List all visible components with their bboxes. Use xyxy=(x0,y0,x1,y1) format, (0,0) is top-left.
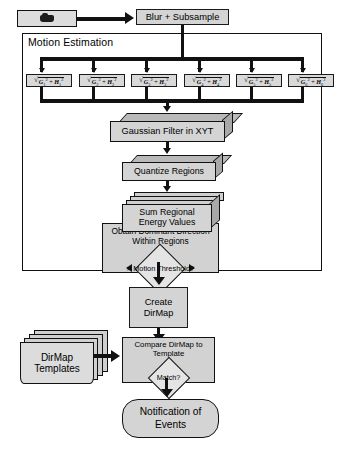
template-front-sheet: DirMap Templates xyxy=(20,342,94,384)
blur-subsample-label: Blur + Subsample xyxy=(146,12,220,22)
filter-chip-3: √G32 + H32 xyxy=(131,74,177,87)
notification-line2: Events xyxy=(155,419,186,431)
motion-estimation-label: Motion Estimation xyxy=(28,36,113,48)
arrow-to-create-dirmap xyxy=(153,277,165,285)
arrow-to-notification xyxy=(161,389,173,397)
notification-node: Notification of Events xyxy=(122,399,219,438)
connector-source-to-blur xyxy=(77,17,127,21)
quantize-front-face: Quantize Regions xyxy=(122,162,216,181)
create-dirmap-line1: Create xyxy=(145,297,173,307)
filter-chip-6: √G62 + H62 xyxy=(288,74,334,87)
chip-1-index: 1 xyxy=(43,82,45,87)
arrow-to-quantize xyxy=(163,148,171,154)
gaussian-front-face: Gaussian Filter in XYT xyxy=(110,121,225,142)
filter-chip-1: √G12 + H12 xyxy=(26,74,72,87)
chip-2-index: 2 xyxy=(96,82,98,87)
bus-arrow-3 xyxy=(144,68,150,73)
chip-6-index: 6 xyxy=(305,82,307,87)
chip-4-index: 4 xyxy=(201,82,203,87)
sum-front-face: Sum Regional Energy Values xyxy=(122,204,212,232)
compare-node: Compare DirMap to Template Match? xyxy=(122,337,215,383)
gaussian-filter-label: Gaussian Filter in XYT xyxy=(122,126,214,136)
match-label: Match? xyxy=(123,373,214,382)
bus-arrow-6 xyxy=(300,68,306,73)
create-dirmap-line2: DirMap xyxy=(144,308,174,318)
arrow-to-gaussian xyxy=(163,106,171,112)
filter-chip-2: √G22 + H22 xyxy=(79,74,125,87)
bus-arrow-1 xyxy=(39,68,45,73)
quantize-regions-label: Quantize Regions xyxy=(134,167,204,177)
video-camera-icon xyxy=(40,15,54,22)
compare-line1: Compare DirMap to xyxy=(134,340,202,349)
notification-line1: Notification of xyxy=(140,406,202,418)
sum-regional-node: Sum Regional Energy Values xyxy=(122,192,226,236)
collector-bus xyxy=(40,99,304,103)
connector-blur-down xyxy=(181,25,184,59)
quantize-regions-node: Quantize Regions xyxy=(122,155,224,185)
dirmap-templates-line2: Templates xyxy=(34,363,80,375)
arrowhead-templates-to-compare xyxy=(111,350,120,362)
filter-chip-5: √G52 + H52 xyxy=(236,74,282,87)
arrowhead-source-to-blur xyxy=(125,12,134,24)
dirmap-templates-line1: DirMap xyxy=(41,352,73,364)
flowchart-canvas: Blur + Subsample Motion Estimation √G12 … xyxy=(0,0,343,452)
blur-subsample-node: Blur + Subsample xyxy=(136,9,229,25)
chip-3-index: 3 xyxy=(148,82,150,87)
bus-arrow-4 xyxy=(197,68,203,73)
bus-arrow-2 xyxy=(91,68,97,73)
bus-arrow-5 xyxy=(249,68,255,73)
distribution-bus xyxy=(40,57,304,61)
create-dirmap-node: Create DirMap xyxy=(129,287,188,328)
gaussian-filter-node: Gaussian Filter in XYT xyxy=(110,113,234,146)
filter-chip-4: √G42 + H42 xyxy=(184,74,230,87)
chip-5-index: 5 xyxy=(253,82,255,87)
motion-threshold-label: > Motion Threshold? xyxy=(103,264,218,273)
video-source-node xyxy=(17,10,77,27)
sum-regional-line2: Energy Values xyxy=(139,218,196,228)
